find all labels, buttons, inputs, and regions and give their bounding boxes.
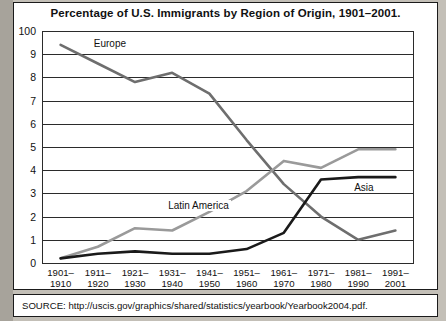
x-axis-tick-label-line: 2001 bbox=[382, 278, 409, 289]
x-axis-tick-label-line: 1911– bbox=[85, 267, 111, 278]
y-axis-tick-label: 5 bbox=[30, 141, 36, 153]
y-axis-tick-label: 0 bbox=[30, 257, 36, 269]
x-axis-tick-label-line: 1981– bbox=[345, 267, 372, 278]
x-axis-tick-label-line: 1950 bbox=[196, 278, 223, 289]
plot-area: 1009876543210 EuropeLatin AmericaAsia bbox=[42, 31, 414, 263]
series-lines bbox=[42, 31, 414, 263]
y-axis-tick-label: 7 bbox=[30, 95, 36, 107]
x-axis-tick-label: 1951–1960 bbox=[233, 267, 260, 289]
x-axis-tick-label: 1971–1980 bbox=[308, 267, 335, 289]
x-axis-labels: 1901–19101911–19201921–19301931–19401941… bbox=[42, 267, 414, 293]
chart-figure: Percentage of U.S. Immigrants by Region … bbox=[13, 2, 438, 290]
x-axis-tick-label-line: 1991– bbox=[382, 267, 409, 278]
chart-title: Percentage of U.S. Immigrants by Region … bbox=[14, 7, 437, 19]
x-axis-tick-label: 1981–1990 bbox=[345, 267, 372, 289]
screenshot-root: Percentage of U.S. Immigrants by Region … bbox=[0, 0, 446, 321]
x-axis-tick-label-line: 1901– bbox=[47, 267, 74, 278]
y-axis-tick-label: 3 bbox=[30, 187, 36, 199]
x-axis-tick-label-line: 1960 bbox=[233, 278, 260, 289]
x-axis-tick-label: 1961–1970 bbox=[270, 267, 297, 289]
x-axis-tick-label-line: 1910 bbox=[47, 278, 74, 289]
series-line-asia bbox=[61, 177, 396, 258]
x-axis-tick-label: 1911–1920 bbox=[85, 267, 111, 289]
x-axis-tick-label: 1941–1950 bbox=[196, 267, 223, 289]
x-axis-tick-label-line: 1920 bbox=[85, 278, 111, 289]
x-axis-tick-label-line: 1970 bbox=[270, 278, 297, 289]
x-axis-tick-label: 1921–1930 bbox=[122, 267, 149, 289]
x-axis-tick-label-line: 1931– bbox=[159, 267, 186, 278]
x-axis-tick-label-line: 1930 bbox=[122, 278, 149, 289]
x-axis-tick-label: 1901–1910 bbox=[47, 267, 74, 289]
y-axis-tick-label: 4 bbox=[30, 164, 36, 176]
x-axis-tick-label-line: 1990 bbox=[345, 278, 372, 289]
gridline bbox=[42, 263, 414, 264]
x-axis-tick-label-line: 1971– bbox=[308, 267, 335, 278]
x-axis-tick-label-line: 1951– bbox=[233, 267, 260, 278]
series-label-europe: Europe bbox=[92, 38, 128, 49]
y-axis-tick-label: 2 bbox=[30, 211, 36, 223]
y-axis-tick-label: 8 bbox=[30, 71, 36, 83]
x-axis-tick-label-line: 1941– bbox=[196, 267, 223, 278]
x-axis-tick-label: 1991–2001 bbox=[382, 267, 409, 289]
series-label-asia: Asia bbox=[352, 182, 375, 193]
x-axis-tick-label-line: 1940 bbox=[159, 278, 186, 289]
source-caption: SOURCE: http://uscis.gov/graphics/shared… bbox=[13, 294, 438, 317]
y-axis-tick-label: 1 bbox=[30, 234, 36, 246]
page-margin-strip bbox=[0, 0, 13, 321]
y-axis-tick-label: 100 bbox=[18, 25, 36, 37]
y-axis-tick-label: 6 bbox=[30, 118, 36, 130]
x-axis-tick-label-line: 1961– bbox=[270, 267, 297, 278]
series-label-latin-america: Latin America bbox=[166, 200, 231, 211]
x-axis-tick-label-line: 1980 bbox=[308, 278, 335, 289]
x-axis-tick-label-line: 1921– bbox=[122, 267, 149, 278]
y-axis-tick-label: 9 bbox=[30, 48, 36, 60]
x-axis-tick-label: 1931–1940 bbox=[159, 267, 186, 289]
